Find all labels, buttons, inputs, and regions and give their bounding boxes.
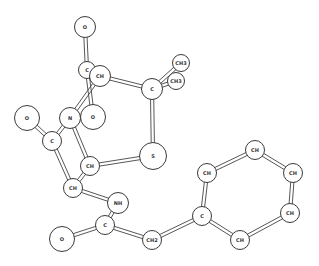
atom-o1: O [74, 16, 96, 38]
atom-label: CH3 [170, 78, 181, 84]
atom-s1: S [139, 142, 167, 170]
atom-n1: N [59, 107, 81, 129]
atom-c5: C [192, 206, 212, 226]
atom-o3: O [14, 105, 40, 131]
atom-label: CH [96, 73, 104, 79]
atom-nh1: NH [107, 192, 129, 214]
atom-label: CH2 [146, 237, 157, 243]
atom-ch1: CH [89, 65, 111, 87]
atom-o4: O [49, 226, 75, 252]
atom-ch4: CH [63, 178, 83, 198]
atom-c3: C [42, 131, 62, 151]
atom-label: O [25, 115, 29, 121]
atom-ch8: CH [280, 203, 300, 223]
atom-c4: C [95, 215, 115, 235]
atom-ch5: CH [197, 163, 217, 183]
atom-c2: C [141, 78, 163, 100]
atom-label: N [68, 115, 72, 121]
atom-label: CH [203, 170, 211, 176]
atom-label: S [151, 153, 155, 159]
atom-label: CH3 [175, 60, 186, 66]
atom-label: NH [114, 200, 122, 206]
atom-label: C [50, 138, 54, 144]
atom-ch2b: CH2 [142, 230, 162, 250]
atom-label: O [60, 236, 64, 242]
atom-label: C [200, 213, 204, 219]
atom-label: C [150, 86, 154, 92]
atom-label: C [103, 222, 107, 228]
atom-label: CH [251, 147, 259, 153]
atom-label: CH [286, 210, 294, 216]
atom-label: CH [236, 237, 244, 243]
atom-label: O [91, 114, 95, 120]
atom-label: CH [69, 185, 77, 191]
atom-ch2: CH [80, 156, 100, 176]
atom-ch6: CH [245, 140, 265, 160]
molecule-diagram: OCCHOCCH3CH3ONCCHSCHNHCOCH2CCHCHCHCHCH [0, 0, 319, 266]
atom-label: CH [86, 163, 94, 169]
atom-ch7: CH [283, 163, 303, 183]
atom-label: O [83, 24, 87, 30]
atom-label: C [85, 67, 89, 73]
atom-o2: O [80, 104, 106, 130]
atom-ch3a: CH3 [172, 54, 190, 72]
atom-ch3b: CH3 [167, 72, 185, 90]
atom-ch9: CH [230, 230, 250, 250]
atom-label: CH [289, 170, 297, 176]
